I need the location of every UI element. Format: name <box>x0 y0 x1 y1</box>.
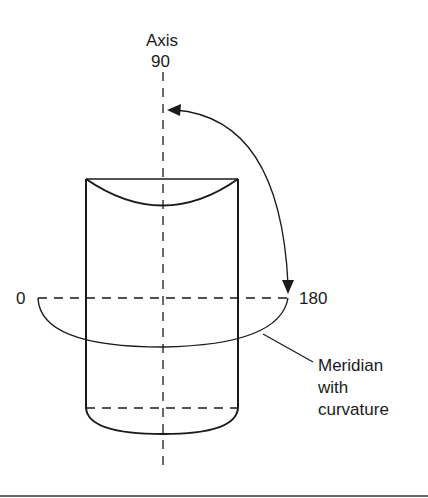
arrowhead-down-icon <box>282 280 294 294</box>
callout-leader-line <box>263 334 313 362</box>
axis-title-label: Axis <box>146 31 178 50</box>
callout-line-3: curvature <box>318 400 389 419</box>
curved-meridian <box>38 298 288 347</box>
left-meridian-label: 0 <box>16 289 25 308</box>
callout-line-1: Meridian <box>318 356 383 375</box>
cylinder-bottom-curve <box>86 408 238 434</box>
cylinder-top-curve <box>86 179 238 206</box>
axis-value-label: 90 <box>151 52 170 71</box>
right-meridian-label: 180 <box>299 289 327 308</box>
rotation-arrow <box>175 110 288 284</box>
callout-line-2: with <box>317 378 348 397</box>
arrowhead-up-icon <box>167 104 181 116</box>
cylinder-diagram: Axis 90 0 180 Meridian with curvature <box>0 0 428 498</box>
